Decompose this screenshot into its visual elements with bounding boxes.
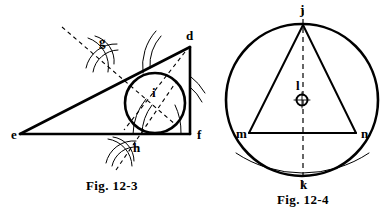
point-label-l: l (296, 78, 300, 93)
point-label-j: j (299, 2, 304, 17)
point-label-k: k (300, 177, 308, 192)
point-label-m: m (236, 126, 247, 141)
point-label-n: n (361, 126, 369, 141)
center-marker-l (294, 92, 310, 108)
figure-12-4: j k l m n Fig. 12-4 (0, 0, 386, 211)
caption-fig-12-4: Fig. 12-4 (277, 192, 329, 207)
figure-page: e d f g h i Fig. 12-3 j k (0, 0, 386, 211)
